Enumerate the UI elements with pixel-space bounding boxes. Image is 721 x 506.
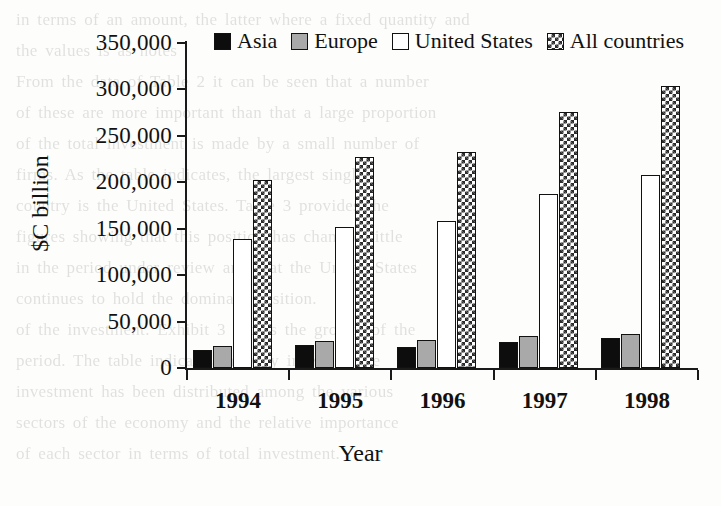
bar-europe-1994 xyxy=(213,346,232,368)
bar-asia-1994 xyxy=(193,350,212,368)
y-axis-tick xyxy=(177,274,186,276)
bar-asia-1998 xyxy=(601,338,620,368)
bar-group-1996 xyxy=(391,41,493,368)
y-axis-tick xyxy=(177,321,186,323)
x-axis-tick xyxy=(493,370,495,380)
y-axis-tick-label: 300,000 xyxy=(52,77,172,100)
bar-europe-1998 xyxy=(621,334,640,368)
y-axis-tick xyxy=(177,42,186,44)
bar-chart: Asia Europe United States All countries … xyxy=(0,0,721,506)
x-axis-tick xyxy=(595,370,597,380)
bar-all-countries-1998 xyxy=(661,86,680,368)
x-axis-tick xyxy=(186,370,188,380)
bar-all-countries-1995 xyxy=(355,157,374,368)
bar-united-states-1998 xyxy=(641,175,660,368)
x-axis-tick-label-1995: 1995 xyxy=(285,388,395,414)
y-axis-tick xyxy=(177,135,186,137)
bar-europe-1996 xyxy=(417,340,436,368)
bar-group-1998 xyxy=(596,41,698,368)
bar-united-states-1996 xyxy=(437,221,456,368)
x-axis-tick xyxy=(288,370,290,380)
chart-page: in terms of an amount, the latter where … xyxy=(0,0,721,506)
bar-asia-1997 xyxy=(499,342,518,368)
x-axis-tick-label-1998: 1998 xyxy=(592,388,702,414)
bar-all-countries-1994 xyxy=(253,180,272,369)
bar-group-1997 xyxy=(494,41,596,368)
y-axis-tick xyxy=(177,88,186,90)
bar-all-countries-1997 xyxy=(559,112,578,368)
y-axis-tick xyxy=(177,181,186,183)
x-axis-tick xyxy=(697,370,699,380)
x-axis-tick-label-1997: 1997 xyxy=(490,388,600,414)
bar-asia-1995 xyxy=(295,345,314,368)
x-axis-tick xyxy=(390,370,392,380)
y-axis-tick-label: 200,000 xyxy=(52,170,172,193)
y-axis-tick-label: 50,000 xyxy=(52,310,172,333)
bar-group-1994 xyxy=(187,41,289,368)
bar-united-states-1995 xyxy=(335,227,354,368)
y-axis-tick xyxy=(177,367,186,369)
y-axis-tick-label: 0 xyxy=(52,356,172,379)
y-axis-tick-label: 250,000 xyxy=(52,124,172,147)
y-axis-tick-label: 150,000 xyxy=(52,217,172,240)
x-axis-tick-label-1996: 1996 xyxy=(388,388,498,414)
x-axis-line xyxy=(185,368,698,370)
y-axis-tick-label: 350,000 xyxy=(52,31,172,54)
bar-group-1995 xyxy=(289,41,391,368)
bar-united-states-1997 xyxy=(539,194,558,368)
y-axis-title: $C billion xyxy=(27,104,54,304)
x-axis-tick-label-1994: 1994 xyxy=(183,388,293,414)
y-axis-tick xyxy=(177,228,186,230)
bar-asia-1996 xyxy=(397,347,416,368)
bar-united-states-1994 xyxy=(233,239,252,368)
bar-europe-1997 xyxy=(519,336,538,368)
x-axis-title: Year xyxy=(0,440,721,467)
bar-all-countries-1996 xyxy=(457,152,476,368)
bar-europe-1995 xyxy=(315,341,334,368)
y-axis-tick-label: 100,000 xyxy=(52,263,172,286)
